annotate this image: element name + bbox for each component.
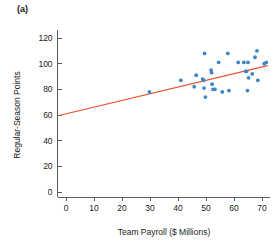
data-point	[256, 78, 260, 82]
y-tick-label: 120	[38, 33, 52, 43]
data-point	[242, 60, 246, 64]
data-point	[220, 90, 224, 94]
y-tick-label: 0	[48, 187, 53, 197]
data-point	[179, 78, 183, 82]
data-point	[192, 85, 196, 89]
data-point	[204, 95, 208, 99]
data-point	[227, 89, 231, 93]
axes-group	[58, 30, 271, 201]
trend-line	[59, 66, 268, 116]
data-point	[245, 69, 249, 73]
data-point	[255, 49, 259, 53]
data-point	[202, 78, 206, 82]
x-tick-label: 70	[257, 203, 267, 213]
x-tick-label: 40	[173, 203, 183, 213]
data-point	[246, 60, 250, 64]
y-tick-label: 60	[43, 110, 53, 120]
scatter-plot-figure: (a) 010203040506070020406080100120Team P…	[0, 0, 278, 242]
data-point	[236, 60, 240, 64]
data-point	[202, 86, 206, 90]
x-tick-label: 50	[201, 203, 211, 213]
y-tick-label: 40	[43, 136, 53, 146]
data-point	[253, 55, 257, 59]
data-point	[194, 73, 198, 77]
x-tick-label: 0	[64, 203, 69, 213]
data-point	[247, 76, 251, 80]
data-point	[148, 90, 152, 94]
y-axis-title: Regular-Season Points	[12, 71, 22, 158]
data-point	[217, 60, 221, 64]
data-point	[264, 60, 268, 64]
axis-labels-group: 010203040506070020406080100120Team Payro…	[12, 33, 267, 237]
y-tick-label: 80	[43, 84, 53, 94]
x-tick-label: 10	[89, 203, 99, 213]
data-points-group	[148, 49, 269, 99]
data-point	[210, 71, 214, 75]
x-tick-label: 20	[117, 203, 127, 213]
y-tick-label: 100	[38, 59, 52, 69]
data-point	[226, 52, 230, 56]
data-point	[203, 52, 207, 56]
x-tick-label: 60	[229, 203, 239, 213]
y-tick-label: 20	[43, 161, 53, 171]
x-axis-title: Team Payroll ($ Millions)	[118, 227, 211, 237]
data-point	[246, 89, 250, 93]
data-point	[250, 72, 254, 76]
data-point	[213, 87, 217, 91]
data-point	[210, 82, 214, 86]
x-tick-label: 30	[145, 203, 155, 213]
plot-canvas: 010203040506070020406080100120Team Payro…	[0, 0, 278, 242]
trend-line-group	[59, 66, 268, 116]
